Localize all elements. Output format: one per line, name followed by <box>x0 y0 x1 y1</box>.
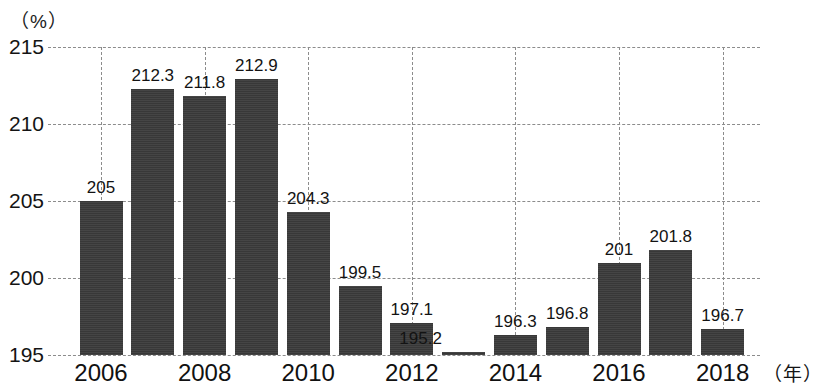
gridline-horizontal <box>48 355 760 356</box>
x-axis-tick-label: 2016 <box>574 361 664 385</box>
y-axis-tick-label: 215 <box>0 36 44 57</box>
bar <box>80 201 123 355</box>
bar <box>546 327 589 355</box>
bar <box>701 329 744 355</box>
bar-value-label: 197.1 <box>372 301 452 318</box>
x-axis-unit-label: （年） <box>763 365 814 384</box>
bar <box>494 335 537 355</box>
gridline-horizontal <box>48 47 760 48</box>
y-axis-tick-label: 200 <box>0 267 44 288</box>
x-axis-tick-label: 2010 <box>263 361 353 385</box>
bar <box>649 250 692 355</box>
bar-value-label: 196.8 <box>527 305 607 322</box>
bar-value-label: 199.5 <box>320 264 400 281</box>
bar-value-label: 196.7 <box>683 307 763 324</box>
bar <box>131 89 174 355</box>
y-axis-tick-label: 210 <box>0 113 44 134</box>
y-axis-tick-label: 195 <box>0 344 44 365</box>
bar-value-label: 204.3 <box>268 190 348 207</box>
x-axis-tick-label: 2006 <box>56 361 146 385</box>
bar <box>183 96 226 355</box>
x-axis-tick-label: 2014 <box>470 361 560 385</box>
bar <box>339 286 382 355</box>
bar-value-label: 205 <box>61 179 141 196</box>
bar-value-label: 211.8 <box>165 74 245 91</box>
gridline-vertical <box>515 47 516 355</box>
bar <box>442 352 485 355</box>
x-axis-tick-label: 2008 <box>160 361 250 385</box>
x-axis-tick-label: 2018 <box>678 361 768 385</box>
bar <box>287 212 330 355</box>
bar-value-label: 195.2 <box>386 330 456 347</box>
bar <box>235 79 278 355</box>
bar-value-label: 212.9 <box>216 57 296 74</box>
x-axis-tick-label: 2012 <box>367 361 457 385</box>
y-axis-tick-label: 205 <box>0 190 44 211</box>
bar-value-label: 201.8 <box>631 228 711 245</box>
